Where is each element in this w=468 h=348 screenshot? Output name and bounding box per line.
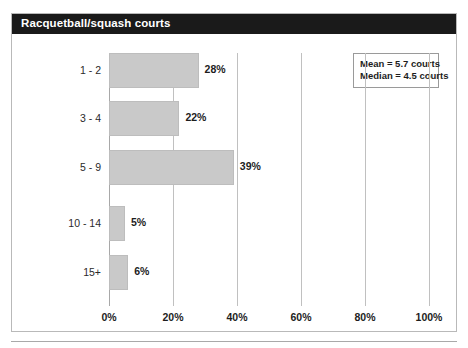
bar-row: 10 - 145% [12, 206, 456, 241]
bar [109, 53, 199, 88]
bar-row: 15+6% [12, 255, 456, 290]
x-tick-label: 60% [271, 311, 331, 323]
bar [109, 101, 179, 136]
plot-area: Mean = 5.7 courts Median = 4.5 courts 0%… [12, 34, 456, 332]
bar-row: 1 - 228% [12, 53, 456, 88]
x-tick-label: 20% [143, 311, 203, 323]
bar-row: 5 - 939% [12, 150, 456, 185]
category-label: 3 - 4 [11, 112, 101, 124]
chart-figure: Racquetball/squash courts Mean = 5.7 cou… [11, 13, 457, 332]
chart-title-bar: Racquetball/squash courts [12, 14, 456, 34]
category-label: 5 - 9 [11, 161, 101, 173]
bar-value-label: 6% [134, 265, 149, 277]
bar [109, 150, 234, 185]
bottom-divider [11, 341, 457, 342]
bar-value-label: 39% [240, 160, 261, 172]
bar-value-label: 28% [205, 63, 226, 75]
page-title: Racquetball/squash courts [21, 17, 170, 29]
bar [109, 206, 125, 241]
x-tick-label: 40% [207, 311, 267, 323]
bar [109, 255, 128, 290]
category-label: 1 - 2 [11, 64, 101, 76]
category-label: 15+ [11, 266, 101, 278]
bar-value-label: 5% [131, 216, 146, 228]
x-tick-label: 80% [335, 311, 395, 323]
bar-value-label: 22% [185, 111, 206, 123]
x-tick-label: 0% [79, 311, 139, 323]
category-label: 10 - 14 [11, 217, 101, 229]
bar-row: 3 - 422% [12, 101, 456, 136]
x-tick-label: 100% [399, 311, 459, 323]
